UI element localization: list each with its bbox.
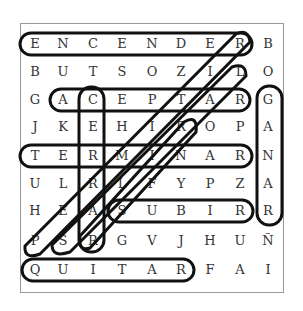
grid-cell[interactable]: E bbox=[198, 33, 222, 55]
grid-cell[interactable]: A bbox=[256, 116, 280, 138]
grid-cell[interactable]: N bbox=[51, 33, 75, 55]
grid-cell[interactable]: N bbox=[169, 145, 193, 167]
grid-cell[interactable]: L bbox=[110, 173, 134, 195]
grid-cell[interactable]: B bbox=[169, 200, 193, 222]
grid-cell[interactable]: O bbox=[256, 61, 280, 83]
grid-cell[interactable]: R bbox=[228, 33, 252, 55]
grid-cell[interactable]: A bbox=[198, 145, 222, 167]
grid-cell[interactable]: Z bbox=[228, 173, 252, 195]
grid-cell[interactable]: A bbox=[228, 259, 252, 281]
grid-cell[interactable]: H bbox=[110, 116, 134, 138]
grid-cell[interactable]: F bbox=[198, 259, 222, 281]
grid-cell[interactable]: I bbox=[81, 259, 105, 281]
grid-cell[interactable]: E bbox=[110, 89, 134, 111]
grid-cell[interactable]: L bbox=[51, 173, 75, 195]
grid-cell[interactable]: A bbox=[140, 259, 164, 281]
grid-cell[interactable]: P bbox=[23, 230, 47, 252]
grid-cell[interactable]: E bbox=[51, 200, 75, 222]
grid-cell[interactable]: R bbox=[256, 200, 280, 222]
grid-cell[interactable]: Q bbox=[23, 259, 47, 281]
grid-cell[interactable]: S bbox=[51, 230, 75, 252]
grid-cell[interactable]: T bbox=[110, 259, 134, 281]
grid-cell[interactable]: P bbox=[228, 116, 252, 138]
grid-cell[interactable]: M bbox=[110, 145, 134, 167]
grid-cell[interactable]: O bbox=[198, 116, 222, 138]
grid-cell[interactable]: D bbox=[169, 33, 193, 55]
grid-cell[interactable]: P bbox=[198, 173, 222, 195]
grid-cell[interactable]: J bbox=[169, 230, 193, 252]
grid-cell[interactable]: B bbox=[256, 33, 280, 55]
grid-cell[interactable]: G bbox=[256, 89, 280, 111]
grid-cell[interactable]: U bbox=[23, 173, 47, 195]
grid-cell[interactable]: V bbox=[140, 230, 164, 252]
grid-cell[interactable]: U bbox=[228, 230, 252, 252]
grid-cell[interactable]: K bbox=[51, 116, 75, 138]
grid-cell[interactable]: T bbox=[23, 145, 47, 167]
grid-cell[interactable]: U bbox=[51, 259, 75, 281]
grid-cell[interactable]: R bbox=[228, 200, 252, 222]
grid-cell[interactable]: A bbox=[81, 200, 105, 222]
grid-cell[interactable]: F bbox=[140, 173, 164, 195]
grid-cell[interactable]: T bbox=[169, 89, 193, 111]
grid-cell[interactable]: Y bbox=[169, 173, 193, 195]
grid-cell[interactable]: U bbox=[51, 61, 75, 83]
grid-cell[interactable]: J bbox=[23, 116, 47, 138]
grid-cell[interactable]: R bbox=[81, 173, 105, 195]
grid-cell[interactable]: G bbox=[110, 230, 134, 252]
grid-cell[interactable]: O bbox=[140, 61, 164, 83]
grid-cell[interactable]: L bbox=[228, 61, 252, 83]
grid-cell[interactable]: C bbox=[81, 33, 105, 55]
grid-cell[interactable]: R bbox=[169, 259, 193, 281]
grid-cell[interactable]: E bbox=[23, 33, 47, 55]
grid-cell[interactable]: R bbox=[81, 230, 105, 252]
grid-cell[interactable]: B bbox=[23, 61, 47, 83]
grid-cell[interactable]: A bbox=[256, 173, 280, 195]
grid-cell[interactable]: R bbox=[81, 145, 105, 167]
grid-cell[interactable]: Ñ bbox=[256, 230, 280, 252]
grid-cell[interactable]: S bbox=[110, 61, 134, 83]
grid-cell[interactable]: H bbox=[23, 200, 47, 222]
word-search-puzzle: ENCENDERBBUTSOZILOGACEPTARGJKEHIROPATERM… bbox=[0, 0, 303, 311]
grid-cell[interactable]: I bbox=[198, 61, 222, 83]
grid-cell[interactable]: R bbox=[169, 116, 193, 138]
grid-cell[interactable]: A bbox=[51, 89, 75, 111]
grid-cell[interactable]: Z bbox=[169, 61, 193, 83]
grid-cell[interactable]: E bbox=[110, 33, 134, 55]
grid-cell[interactable]: N bbox=[256, 145, 280, 167]
grid-cell[interactable]: C bbox=[81, 89, 105, 111]
grid-cell[interactable]: E bbox=[51, 145, 75, 167]
grid-cell[interactable]: I bbox=[140, 116, 164, 138]
grid-cell[interactable]: T bbox=[81, 61, 105, 83]
grid-cell[interactable]: H bbox=[198, 230, 222, 252]
grid-cell[interactable]: R bbox=[228, 145, 252, 167]
grid-cell[interactable]: I bbox=[140, 145, 164, 167]
grid-cell[interactable]: I bbox=[198, 200, 222, 222]
grid-cell[interactable]: I bbox=[256, 259, 280, 281]
grid-cell[interactable]: S bbox=[110, 200, 134, 222]
grid-cell[interactable]: R bbox=[228, 89, 252, 111]
grid-cell[interactable]: U bbox=[140, 200, 164, 222]
grid-cell[interactable]: E bbox=[81, 116, 105, 138]
grid-cell[interactable]: A bbox=[198, 89, 222, 111]
grid-cell[interactable]: N bbox=[140, 33, 164, 55]
grid-cell[interactable]: P bbox=[140, 89, 164, 111]
grid-cell[interactable]: G bbox=[23, 89, 47, 111]
